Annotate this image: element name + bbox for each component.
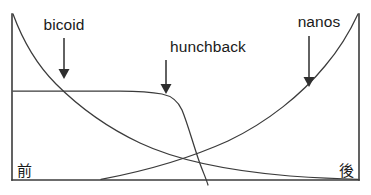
callout-nanos: nanos	[298, 13, 341, 87]
curve-hunchback	[13, 91, 208, 185]
arrow-head-nanos	[304, 77, 315, 87]
morphogen-gradient-figure: bicoid hunchback nanos 前 後	[0, 0, 371, 195]
figure-canvas: bicoid hunchback nanos 前 後	[0, 0, 371, 195]
label-bicoid: bicoid	[43, 16, 84, 33]
arrow-head-hunchback	[161, 84, 172, 94]
callout-hunchback: hunchback	[161, 38, 247, 94]
callout-bicoid: bicoid	[43, 16, 84, 79]
posterior-axis-label: 後	[339, 162, 354, 180]
arrow-head-bicoid	[59, 69, 70, 79]
anterior-axis-label: 前	[17, 162, 32, 180]
label-hunchback: hunchback	[170, 38, 246, 55]
label-nanos: nanos	[298, 13, 341, 30]
